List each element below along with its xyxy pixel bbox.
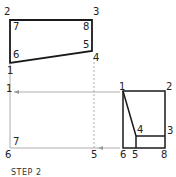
label-4: 4 <box>93 53 99 63</box>
label-2: 2 <box>4 7 10 17</box>
side-view-edge <box>123 91 136 136</box>
label-5: 5 <box>83 40 89 50</box>
label-5: 5 <box>132 150 138 160</box>
label-7: 7 <box>13 137 19 147</box>
arrow-icon <box>98 146 103 150</box>
label-3: 3 <box>167 126 173 136</box>
label-7: 7 <box>13 22 19 32</box>
side-view-outline <box>123 91 165 148</box>
label-5: 5 <box>91 150 97 160</box>
label-4: 4 <box>137 125 143 135</box>
arrow-icon <box>14 90 19 94</box>
label-1: 1 <box>119 82 125 92</box>
top-view-outline <box>10 20 92 63</box>
label-6: 6 <box>120 150 126 160</box>
label-3: 3 <box>93 7 99 17</box>
label-6: 6 <box>5 150 11 160</box>
label-1: 1 <box>6 84 12 94</box>
label-2: 2 <box>166 82 172 92</box>
step-caption: STEP 2 <box>11 168 41 177</box>
label-6: 6 <box>13 50 19 60</box>
label-8: 8 <box>161 150 167 160</box>
label-1: 1 <box>7 66 13 76</box>
label-8: 8 <box>83 22 89 32</box>
